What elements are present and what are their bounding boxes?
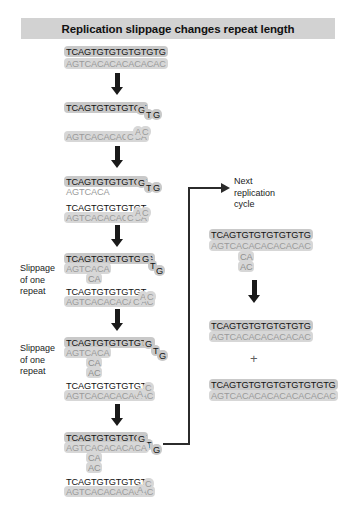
arrow-right-duplex-to-products — [248, 280, 261, 304]
slippage-label-1: Slippage of one repeat — [20, 263, 55, 298]
product-1-top-strand: TCAGTGTGTGTGTGTG — [209, 320, 313, 331]
step6-bulge-2: AC — [86, 462, 102, 473]
step5-upper-loop-3: G — [157, 350, 168, 361]
step4-lower-loop-3: C — [145, 291, 156, 302]
arrow-step5-to-step6 — [111, 404, 124, 426]
arrow-step4-to-step5 — [111, 309, 124, 331]
connector-top-segment — [188, 187, 222, 189]
product-2-top-strand: TCAGTGTGTGTGTGTGTGTG — [209, 379, 338, 390]
step6-lower-loop-2: C — [143, 478, 154, 489]
product-2-bottom-strand: AGTCACACACACACACACAC — [209, 390, 338, 401]
step5-lower-loop-2: C — [143, 382, 154, 393]
plus-sign: + — [250, 352, 258, 365]
step6-upper-bottom-strand: AGTCACACACACA — [64, 442, 149, 453]
arrow-step1-to-step2 — [111, 73, 124, 95]
step5-bulge-2: AC — [86, 367, 102, 378]
step4-bulge-1: CA — [86, 273, 102, 284]
step6-upper-loop-3: G — [151, 444, 162, 455]
connector-bottom-segment — [163, 443, 190, 445]
step3-upper-bottom-strand: AGTCACA — [64, 186, 111, 197]
step4-upper-loop-3: G — [154, 265, 165, 276]
arrow-step3-to-step4 — [111, 225, 124, 247]
step1-top-strand: TCAGTGTGTGTGTGTG — [64, 46, 168, 57]
connector-arrowhead — [221, 183, 230, 193]
right-duplex-bulge-2: AC — [238, 261, 254, 272]
step2-top-loop-3: G — [151, 109, 162, 120]
diagram-canvas: Replication slippage changes repeat leng… — [0, 0, 354, 506]
right-duplex-top-strand: TCAGTGTGTGTGTGTG — [209, 229, 313, 240]
step1-bottom-strand: AGTCACACACACACAC — [64, 58, 168, 69]
connector-vertical-segment — [188, 187, 190, 445]
diagram-title-bar: Replication slippage changes repeat leng… — [21, 18, 335, 39]
page-title: Replication slippage changes repeat leng… — [62, 23, 295, 35]
product-1-bottom-strand: AGTCACACACACACAC — [209, 331, 313, 342]
slippage-label-2: Slippage of one repeat — [20, 343, 55, 378]
step2-bottom-loop-3: C — [140, 126, 151, 137]
step3-lower-loop-3: C — [140, 207, 151, 218]
right-duplex-bottom-strand: AGTCACACACACACAC — [209, 240, 313, 251]
arrow-step2-to-step3 — [111, 146, 124, 168]
step3-upper-loop-3: G — [151, 182, 162, 193]
next-replication-cycle-label: Next replication cycle — [234, 176, 275, 211]
